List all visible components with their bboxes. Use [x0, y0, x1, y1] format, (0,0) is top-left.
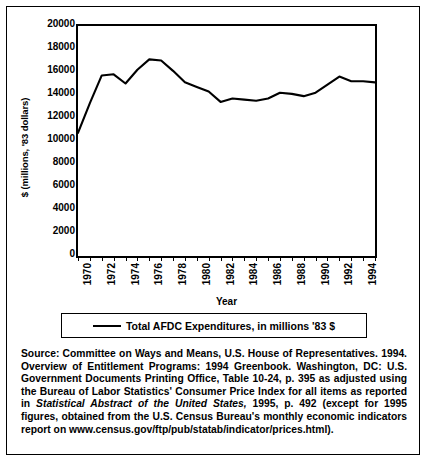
plot-area: [76, 24, 377, 258]
y-tick-label: 20000: [29, 19, 75, 29]
x-tick-mark: [280, 256, 281, 261]
legend-label: Total AFDC Expenditures, in millions '83…: [126, 320, 335, 332]
x-tick-mark: [102, 256, 103, 261]
x-tick-label: 1988: [296, 263, 307, 297]
x-tick-mark: [173, 256, 174, 261]
x-tick-mark: [292, 256, 293, 261]
x-tick-label: 1974: [130, 263, 141, 297]
x-tick-label: 1970: [82, 263, 93, 297]
y-axis-ticks: 0200040006000800010000120001400016000180…: [21, 24, 75, 254]
x-tick-mark: [137, 256, 138, 261]
y-tick-label: 12000: [29, 111, 75, 121]
series-polyline: [78, 59, 375, 133]
x-tick-mark: [90, 256, 91, 261]
x-axis-title: Year: [76, 296, 377, 307]
x-tick-label: 1986: [272, 263, 283, 297]
x-tick-label: 1972: [106, 263, 117, 297]
x-tick-mark: [363, 256, 364, 261]
y-tick-label: 6000: [29, 180, 75, 190]
x-tick-label: 1982: [225, 263, 236, 297]
figure-container: $ (millions, '83 dollars) 02000400060008…: [6, 6, 420, 455]
x-tick-mark: [185, 256, 186, 261]
y-tick-label: 18000: [29, 42, 75, 52]
x-tick-label: 1992: [343, 263, 354, 297]
x-tick-label: 1976: [153, 263, 164, 297]
x-tick-label: 1990: [320, 263, 331, 297]
x-tick-mark: [304, 256, 305, 261]
x-tick-mark: [268, 256, 269, 261]
y-tick-label: 10000: [29, 134, 75, 144]
x-tick-mark: [209, 256, 210, 261]
x-tick-mark: [232, 256, 233, 261]
x-tick-label: 1980: [201, 263, 212, 297]
source-note: Source: Committee on Ways and Means, U.S…: [21, 348, 407, 436]
chart-legend: Total AFDC Expenditures, in millions '83…: [61, 313, 367, 338]
legend-line-swatch: [93, 325, 121, 327]
y-tick-label: 4000: [29, 203, 75, 213]
x-tick-mark: [256, 256, 257, 261]
y-tick-label: 16000: [29, 65, 75, 75]
x-tick-mark: [197, 256, 198, 261]
x-tick-mark: [114, 256, 115, 261]
x-tick-mark: [339, 256, 340, 261]
x-tick-label: 1978: [177, 263, 188, 297]
y-tick-label: 2000: [29, 226, 75, 236]
x-tick-mark: [149, 256, 150, 261]
x-axis-tick-labels: 1970197219741976197819801982198419861988…: [76, 263, 377, 297]
expenditure-line-series: [78, 26, 375, 256]
x-tick-mark: [78, 256, 79, 261]
chart-block: $ (millions, '83 dollars) 02000400060008…: [7, 7, 419, 299]
y-tick-label: 14000: [29, 88, 75, 98]
x-tick-mark: [316, 256, 317, 261]
x-tick-mark: [244, 256, 245, 261]
x-tick-mark: [375, 256, 376, 261]
x-tick-mark: [161, 256, 162, 261]
y-tick-label: 8000: [29, 157, 75, 167]
x-tick-label: 1994: [367, 263, 378, 297]
x-tick-mark: [327, 256, 328, 261]
x-tick-label: 1984: [248, 263, 259, 297]
x-tick-mark: [221, 256, 222, 261]
x-tick-mark: [351, 256, 352, 261]
y-tick-label: 0: [29, 249, 75, 259]
x-tick-mark: [126, 256, 127, 261]
source-note-italic-title: Statistical Abstract of the United State…: [36, 398, 247, 409]
